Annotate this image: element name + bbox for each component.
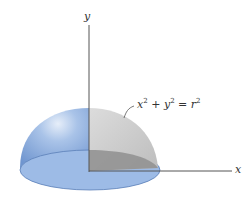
equation-leader [124, 106, 134, 118]
equation-label: x2 + y2 = r2 [137, 97, 201, 111]
x-axis-label: x [235, 163, 241, 176]
y-axis-label: y [84, 10, 90, 23]
hemisphere-figure [0, 0, 252, 201]
hemisphere-diagram: y x x2 + y2 = r2 [0, 0, 252, 201]
